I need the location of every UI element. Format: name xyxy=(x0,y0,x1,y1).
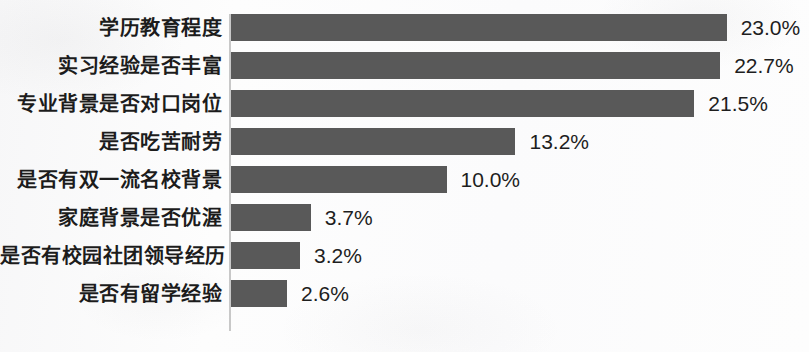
bar xyxy=(231,242,300,269)
bar-track xyxy=(231,242,300,269)
bar-track xyxy=(231,52,720,79)
bar-row: 是否吃苦耐劳13.2% xyxy=(0,123,809,161)
bar-row: 是否有校园社团领导经历3.2% xyxy=(0,237,809,275)
category-label: 学历教育程度 xyxy=(0,9,222,47)
bar xyxy=(231,166,447,193)
bar xyxy=(231,14,727,41)
category-label: 家庭背景是否优渥 xyxy=(0,199,222,237)
category-label: 专业背景是否对口岗位 xyxy=(0,85,222,123)
bar-track xyxy=(231,204,311,231)
bar-value-label: 3.2% xyxy=(314,242,362,269)
bar-track xyxy=(231,280,287,307)
bar-track xyxy=(231,128,515,155)
bar-value-label: 23.0% xyxy=(741,14,801,41)
bar xyxy=(231,52,720,79)
bar-value-label: 13.2% xyxy=(529,128,589,155)
category-label: 是否有校园社团领导经历 xyxy=(0,237,222,275)
bar-track xyxy=(231,166,447,193)
bar-value-label: 3.7% xyxy=(325,204,373,231)
horizontal-bar-chart: 学历教育程度23.0%实习经验是否丰富22.7%专业背景是否对口岗位21.5%是… xyxy=(0,0,809,352)
bar-row: 学历教育程度23.0% xyxy=(0,9,809,47)
bar xyxy=(231,128,515,155)
bar xyxy=(231,90,694,117)
bar-row: 家庭背景是否优渥3.7% xyxy=(0,199,809,237)
bar-value-label: 2.6% xyxy=(301,280,349,307)
category-label: 是否吃苦耐劳 xyxy=(0,123,222,161)
bar xyxy=(231,204,311,231)
category-label: 是否有留学经验 xyxy=(0,275,222,313)
bar-row: 是否有留学经验2.6% xyxy=(0,275,809,313)
bar xyxy=(231,280,287,307)
bar-row: 实习经验是否丰富22.7% xyxy=(0,47,809,85)
bar-value-label: 21.5% xyxy=(708,90,768,117)
bar-row: 专业背景是否对口岗位21.5% xyxy=(0,85,809,123)
bar-row: 是否有双一流名校背景10.0% xyxy=(0,161,809,199)
bar-value-label: 10.0% xyxy=(461,166,521,193)
bar-value-label: 22.7% xyxy=(734,52,794,79)
category-label: 实习经验是否丰富 xyxy=(0,47,222,85)
bar-track xyxy=(231,90,694,117)
bar-track xyxy=(231,14,727,41)
category-label: 是否有双一流名校背景 xyxy=(0,161,222,199)
